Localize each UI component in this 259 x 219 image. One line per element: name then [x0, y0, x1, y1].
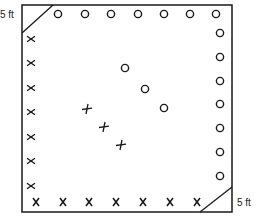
- bottom-right-corner-diagonal: [200, 187, 232, 212]
- x-marker: [167, 198, 173, 206]
- x-marker: [60, 198, 66, 206]
- circle-marker: [216, 172, 223, 179]
- center-circle-marker: [160, 104, 167, 111]
- circle-marker: [216, 29, 223, 36]
- top-left-corner-diagonal: [22, 5, 53, 33]
- x-marker: [27, 134, 35, 140]
- x-marker: [27, 85, 35, 91]
- circle-marker: [216, 100, 223, 107]
- x-marker: [27, 109, 35, 115]
- circle-marker: [212, 10, 219, 17]
- center-circle-marker: [121, 64, 128, 71]
- court-diagram: [0, 0, 259, 219]
- circle-marker: [81, 10, 88, 17]
- center-circle-marker: [141, 85, 148, 92]
- bottom-right-distance-label: 5 ft: [237, 197, 251, 208]
- circle-marker: [216, 124, 223, 131]
- markers-group: [27, 10, 224, 206]
- plus-marker: [99, 122, 109, 132]
- plus-marker: [82, 104, 92, 114]
- x-marker: [27, 183, 35, 189]
- circle-marker: [160, 10, 167, 17]
- x-marker: [113, 198, 119, 206]
- circle-marker: [216, 53, 223, 60]
- x-marker: [27, 158, 35, 164]
- x-marker: [86, 198, 92, 206]
- circle-marker: [107, 10, 114, 17]
- circle-marker: [216, 148, 223, 155]
- x-marker: [140, 198, 146, 206]
- x-marker: [27, 36, 35, 42]
- x-marker: [33, 198, 39, 206]
- circle-marker: [134, 10, 141, 17]
- x-marker: [194, 198, 200, 206]
- plus-marker: [116, 140, 126, 150]
- circle-marker: [54, 10, 61, 17]
- court-frame: [22, 5, 232, 212]
- x-marker: [27, 60, 35, 66]
- circle-marker: [186, 10, 193, 17]
- circle-marker: [216, 77, 223, 84]
- top-left-distance-label: 5 ft: [0, 9, 14, 20]
